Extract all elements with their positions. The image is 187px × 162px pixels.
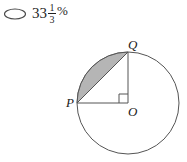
circle-diagram-svg	[0, 0, 187, 162]
point-label-P: P	[66, 96, 74, 109]
geometry-figure: P Q O	[0, 0, 187, 162]
right-angle-marker	[119, 94, 128, 103]
screenshot-root: 33 1 3 % P Q O	[0, 0, 187, 162]
point-label-O: O	[128, 105, 137, 118]
point-label-Q: Q	[128, 38, 137, 51]
